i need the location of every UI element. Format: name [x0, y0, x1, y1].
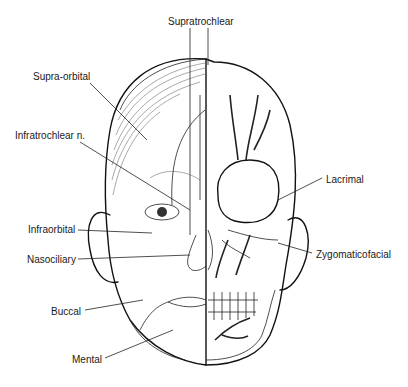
supraorbital-leader	[90, 83, 147, 140]
supraorbital-nerve-branch	[230, 95, 238, 160]
nasal-aperture	[208, 230, 213, 270]
label-supra-orbital: Supra-orbital	[33, 71, 90, 83]
hairline	[120, 59, 206, 110]
mental-nerve-branch	[215, 318, 250, 340]
buccal-leader	[85, 300, 143, 310]
label-infraorbital: Infraorbital	[28, 224, 75, 236]
label-nasociliary: Nasociliary	[27, 254, 76, 266]
face-skull-illustration	[0, 0, 408, 387]
left-ear	[88, 212, 118, 282]
orbit	[218, 160, 279, 223]
label-buccal: Buccal	[51, 306, 81, 318]
facial-nerve-diagram: Supratrochlear Supra-orbital Infratrochl…	[0, 0, 408, 387]
lacrimal-leader	[278, 178, 322, 200]
mandible	[206, 290, 275, 360]
zygomaticofacial-nerve-branch	[216, 240, 228, 278]
label-supratrochlear: Supratrochlear	[168, 16, 234, 28]
iris	[157, 207, 167, 217]
label-lacrimal: Lacrimal	[326, 174, 364, 186]
nose	[188, 235, 206, 271]
lips	[168, 297, 206, 307]
label-mental: Mental	[72, 354, 102, 366]
eyebrow	[150, 171, 200, 180]
nasociliary-leader	[78, 255, 190, 259]
infratrochlear-leader	[80, 142, 190, 210]
teeth	[208, 292, 258, 320]
label-zygomaticofacial: Zygomaticofacial	[316, 249, 391, 261]
label-infratrochlear: Infratrochlear n.	[15, 130, 85, 142]
zygomaticofacial-leader	[278, 243, 312, 253]
